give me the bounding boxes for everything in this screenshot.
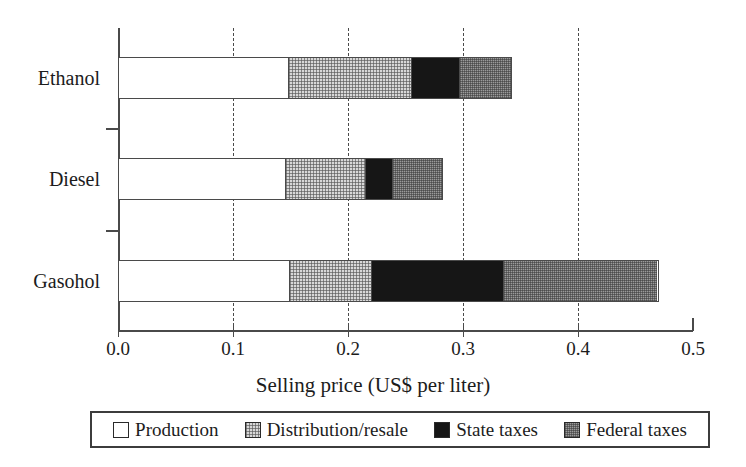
x-axis-title: Selling price (US$ per liter) (0, 372, 746, 398)
legend-label-production: Production (135, 419, 218, 440)
bar-segment-diesel-federal-taxes (392, 159, 442, 199)
legend-item-production[interactable]: Production (113, 419, 218, 440)
legend-label-distribution-resale: Distribution/resale (267, 419, 408, 440)
x-tick-label-1: 0.1 (221, 338, 245, 360)
legend-item-federal-taxes[interactable]: Federal taxes (564, 419, 687, 440)
x-axis-tick-2 (348, 324, 349, 337)
y-axis-tick-1 (106, 128, 119, 130)
y-tick-label-gasohol: Gasohol (33, 270, 100, 292)
bar-diesel (118, 158, 443, 200)
legend-item-state-taxes[interactable]: State taxes (434, 419, 538, 440)
bar-segment-gasohol-federal-taxes (503, 261, 658, 301)
x-axis-tick-0 (118, 324, 119, 337)
bar-ethanol (118, 57, 512, 99)
bar-gasohol (118, 260, 659, 302)
legend-label-federal-taxes: Federal taxes (586, 419, 687, 440)
x-tick-label-4: 0.4 (566, 338, 590, 360)
x-tick-label-2: 0.2 (336, 338, 360, 360)
chart-figure: Ethanol Diesel Gasohol 0.0 0.1 0.2 0.3 0… (0, 0, 746, 467)
bar-segment-ethanol-production (119, 58, 288, 98)
x-tick-label-5: 0.5 (681, 338, 705, 360)
bar-segment-diesel-production (119, 159, 285, 199)
bar-segment-diesel-state-taxes (365, 159, 392, 199)
bar-segment-gasohol-distribution-resale (289, 261, 371, 301)
swatch-light-dotted-icon (245, 422, 261, 438)
bar-segment-gasohol-state-taxes (371, 261, 503, 301)
x-axis-tick-5 (692, 318, 694, 331)
bar-segment-ethanol-state-taxes (411, 58, 459, 98)
swatch-white-icon (113, 422, 129, 438)
x-tick-label-0: 0.0 (106, 338, 130, 360)
legend: ProductionDistribution/resaleState taxes… (90, 411, 710, 448)
y-axis-tick-2 (106, 230, 119, 232)
y-tick-label-diesel: Diesel (49, 168, 100, 190)
swatch-black-icon (434, 422, 450, 438)
legend-item-distribution-resale[interactable]: Distribution/resale (245, 419, 408, 440)
bar-segment-ethanol-distribution-resale (288, 58, 410, 98)
bar-segment-gasohol-production (119, 261, 289, 301)
x-axis-tick-4 (578, 324, 579, 337)
x-axis-tick-3 (463, 324, 464, 337)
bar-segment-diesel-distribution-resale (285, 159, 365, 199)
swatch-gray-icon (564, 422, 580, 438)
y-tick-label-ethanol: Ethanol (38, 67, 100, 89)
x-axis-line (118, 330, 693, 332)
bar-segment-ethanol-federal-taxes (459, 58, 512, 98)
legend-label-state-taxes: State taxes (456, 419, 538, 440)
x-tick-label-3: 0.3 (451, 338, 475, 360)
x-axis-tick-1 (233, 324, 234, 337)
